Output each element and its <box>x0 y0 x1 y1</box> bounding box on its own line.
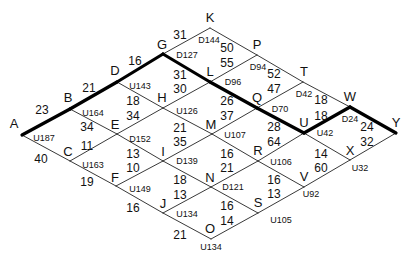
node-label-U: U <box>299 117 308 129</box>
edge-weight-W-Y: 24 <box>360 121 373 133</box>
node-label-H: H <box>157 92 166 104</box>
node-code-P: D94 <box>250 61 267 73</box>
node-label-J: J <box>160 198 167 210</box>
node-code-K: D144 <box>198 34 220 46</box>
edge-weight-R-U: 64 <box>267 136 280 148</box>
node-code-V: U92 <box>303 188 320 200</box>
edge-weight-R-V: 16 <box>267 174 280 186</box>
edge-O-S <box>211 213 258 239</box>
node-code-B: U164 <box>82 107 104 119</box>
node-label-A: A <box>10 118 19 130</box>
edge-weight-F-J: 16 <box>126 202 139 214</box>
edge-weight-Q-U: 28 <box>267 121 280 133</box>
node-label-Y: Y <box>392 117 401 129</box>
node-code-H: U126 <box>176 105 198 117</box>
edge-weight-P-T: 52 <box>267 68 280 80</box>
node-code-A: U187 <box>33 132 55 144</box>
node-code-T: D42 <box>296 88 313 100</box>
edge-weight-X-Y: 32 <box>360 136 373 148</box>
edge-S-V <box>258 187 304 213</box>
node-code-D: U143 <box>129 80 151 92</box>
node-code-L: D96 <box>225 76 242 88</box>
node-label-P: P <box>253 39 262 51</box>
edge-weight-I-M: 35 <box>173 136 186 148</box>
edge-C-E <box>70 134 117 161</box>
node-label-B: B <box>64 92 73 104</box>
node-code-X: U32 <box>352 162 369 174</box>
node-code-O: U134 <box>200 241 222 253</box>
node-code-G: D127 <box>176 49 198 61</box>
node-label-C: C <box>63 146 72 158</box>
node-label-V: V <box>300 171 309 183</box>
node-code-F: U149 <box>129 183 151 195</box>
node-label-K: K <box>206 12 215 24</box>
edge-weight-E-I: 13 <box>126 148 139 160</box>
edge-weight-L-Q: 26 <box>220 95 233 107</box>
node-label-S: S <box>254 197 263 209</box>
edge-weight-D-G: 16 <box>128 55 141 67</box>
node-label-T: T <box>300 66 308 78</box>
node-code-R: U106 <box>270 156 292 168</box>
edge-weight-B-E: 34 <box>80 121 93 133</box>
edge-weight-U-W: 18 <box>314 110 327 122</box>
node-label-R: R <box>253 145 262 157</box>
edge-weight-G-L: 31 <box>173 69 186 81</box>
node-label-I: I <box>161 146 165 158</box>
edge-weight-J-O: 21 <box>173 229 186 241</box>
node-label-G: G <box>157 39 167 51</box>
edge-weight-O-S: 14 <box>220 215 233 227</box>
edge-weight-H-M: 21 <box>173 122 186 134</box>
node-label-E: E <box>111 119 120 131</box>
edge-weight-N-R: 21 <box>220 162 233 174</box>
node-label-O: O <box>205 223 215 235</box>
edge-weight-I-N: 18 <box>173 174 186 186</box>
edge-weight-N-S: 16 <box>220 200 233 212</box>
node-code-M: U107 <box>224 129 246 141</box>
node-code-I: D139 <box>176 155 198 167</box>
edge-weight-C-F: 19 <box>80 176 93 188</box>
node-label-D: D <box>110 65 119 77</box>
node-code-W: D24 <box>342 113 359 125</box>
node-label-Q: Q <box>252 92 262 104</box>
edge-weight-S-V: 13 <box>267 188 280 200</box>
node-code-U: U42 <box>317 127 334 139</box>
node-label-W: W <box>344 91 356 103</box>
node-code-E: D152 <box>129 133 151 145</box>
edge-weight-U-X: 14 <box>314 148 327 160</box>
edge-weight-C-E: 11 <box>81 140 93 152</box>
edge-weight-V-X: 60 <box>314 162 327 174</box>
edge-weight-B-D: 21 <box>82 82 95 94</box>
edge-weight-A-B: 23 <box>35 104 48 116</box>
node-code-Q: D70 <box>272 103 289 115</box>
edge-weight-K-P: 50 <box>220 42 233 54</box>
edge-weight-Q-T: 47 <box>267 83 280 95</box>
node-code-S: U105 <box>270 214 292 226</box>
edge-E-H <box>117 108 163 134</box>
edge-weight-F-I: 10 <box>126 162 139 174</box>
edge-weight-G-K: 31 <box>173 29 186 41</box>
edge-weight-H-L: 30 <box>173 83 186 95</box>
node-code-N: D121 <box>222 181 244 193</box>
edge-weight-J-N: 13 <box>173 189 186 201</box>
node-code-C: U163 <box>82 159 104 171</box>
edge-weight-D-H: 18 <box>126 95 139 107</box>
edge-weight-L-P: 55 <box>220 57 233 69</box>
edge-weight-A-C: 40 <box>34 153 47 165</box>
edge-weight-T-W: 18 <box>314 94 327 106</box>
edge-weight-M-R: 16 <box>220 148 233 160</box>
node-label-L: L <box>206 66 213 78</box>
node-label-M: M <box>206 119 217 131</box>
node-code-J: U134 <box>176 208 198 220</box>
edge-weight-E-H: 34 <box>126 110 139 122</box>
node-label-F: F <box>111 172 119 184</box>
node-label-X: X <box>346 145 355 157</box>
edge-weight-M-Q: 37 <box>220 110 233 122</box>
node-label-N: N <box>205 172 214 184</box>
